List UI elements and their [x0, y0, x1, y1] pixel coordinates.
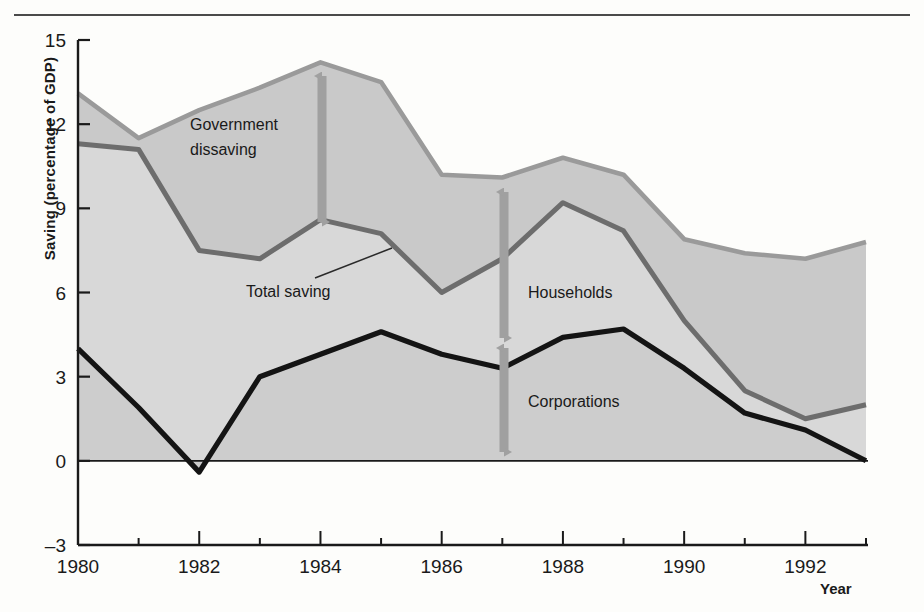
svg-text:1982: 1982 — [178, 556, 220, 577]
x-axis-tick-labels: 1980198219841986198819901992 — [57, 556, 827, 577]
svg-text:1992: 1992 — [784, 556, 826, 577]
svg-text:15: 15 — [45, 30, 66, 51]
annotation-corporations: Corporations — [528, 393, 620, 410]
svg-text:6: 6 — [55, 283, 66, 304]
svg-text:9: 9 — [55, 198, 66, 219]
svg-text:0: 0 — [55, 451, 66, 472]
svg-text:1990: 1990 — [663, 556, 705, 577]
svg-text:–3: –3 — [45, 535, 66, 556]
annotation-households: Households — [528, 284, 613, 301]
chart-figure: Saving (percentage of GDP) Year — [0, 0, 924, 612]
x-axis-ticks — [78, 531, 866, 545]
y-axis-tick-labels: 15129630–3 — [45, 30, 66, 556]
annotation-government-dissaving-line1: Government — [190, 116, 279, 133]
svg-text:1980: 1980 — [57, 556, 99, 577]
svg-text:3: 3 — [55, 367, 66, 388]
plot-area: 15129630–3 1980198219841986198819901992 … — [0, 0, 924, 612]
svg-text:1988: 1988 — [542, 556, 584, 577]
svg-text:12: 12 — [45, 114, 66, 135]
annotation-government-dissaving-line2: dissaving — [190, 141, 257, 158]
svg-text:1986: 1986 — [421, 556, 463, 577]
annotation-total-saving: Total saving — [246, 283, 331, 300]
svg-text:1984: 1984 — [299, 556, 342, 577]
